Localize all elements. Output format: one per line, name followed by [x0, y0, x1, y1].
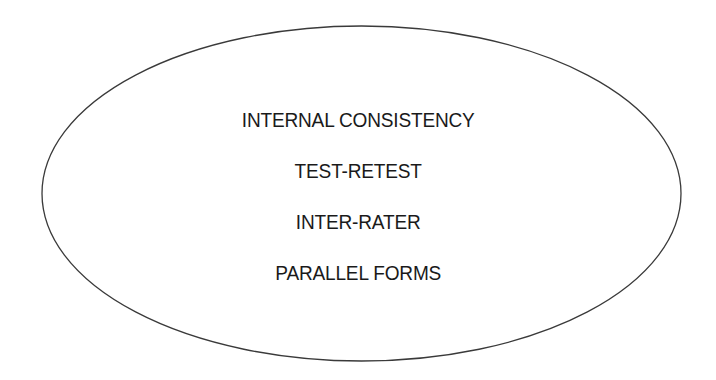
reliability-ellipse [42, 26, 681, 361]
item-label: PARALLEL FORMS [275, 263, 441, 284]
item-label: INTERNAL CONSISTENCY [242, 110, 475, 131]
ellipse-container [0, 0, 716, 380]
item-internal-consistency: INTERNAL CONSISTENCY [25, 110, 691, 131]
item-label: INTER-RATER [296, 212, 421, 233]
item-parallel-forms: PARALLEL FORMS [25, 263, 691, 284]
item-inter-rater: INTER-RATER [25, 212, 691, 233]
item-label: TEST-RETEST [295, 161, 422, 182]
item-test-retest: TEST-RETEST [25, 161, 691, 182]
